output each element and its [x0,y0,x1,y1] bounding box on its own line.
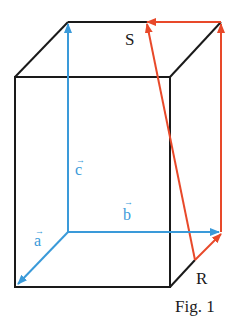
vector-a [18,232,68,284]
vec-arrow-a: → [35,226,44,236]
edge-top-left [15,22,68,77]
box-edges [15,22,221,287]
vec-arrow-c: → [76,155,85,165]
blue-vectors [18,24,219,284]
parallelepiped-diagram: S R c → b → a → Fig. 1 [0,0,234,329]
label-b: b [123,206,131,223]
front-face [15,77,170,287]
red-vector-R-to-corner [195,234,221,260]
edge-bottom-right [170,260,195,287]
label-S: S [125,30,134,49]
label-R: R [196,269,208,288]
edge-top-right [170,22,221,77]
vec-arrow-b: → [124,197,133,207]
figure-caption: Fig. 1 [175,297,215,316]
red-vectors [147,22,221,260]
